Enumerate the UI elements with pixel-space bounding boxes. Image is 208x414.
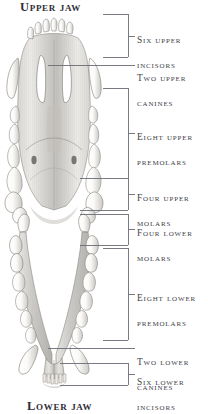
callout-line-1: Six lower [137,376,184,389]
callout-line-1: Four upper [137,192,190,205]
lower-jaw-figure [10,214,99,388]
skull-illustration [0,10,108,406]
callout-line-1: Six upper [137,34,181,47]
callout-six-lower-incisors: Six lower incisors [137,363,184,414]
lower-incisors [42,374,66,388]
lower-jaw-title: Lower jaw [27,400,92,413]
callout-line-1: Four lower [137,227,193,240]
callout-line-1: Eight upper [137,131,193,144]
callout-eight-lower-premolars: Eight lower premolars [137,279,196,342]
upper-jaw-figure [5,18,103,224]
callout-line-2: premolars [137,317,196,330]
lower-premolars [13,273,96,344]
callout-two-upper-canines: Two upper canines [137,59,186,122]
callout-line-2: incisors [137,401,184,414]
callout-line-2: canines [137,97,186,110]
callout-four-lower-molars: Four lower molars [137,214,193,277]
callout-line-1: Eight lower [137,292,196,305]
callout-line-2: molars [137,252,193,265]
callout-eight-upper-premolars: Eight upper premolars [137,118,193,181]
callout-line-2: premolars [137,156,193,169]
callout-line-1: Two upper [137,72,186,85]
